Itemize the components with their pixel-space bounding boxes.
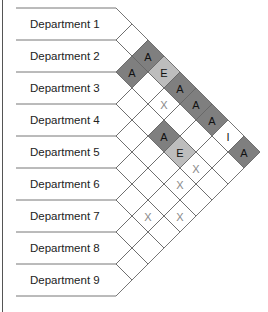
relationship-code: A: [192, 99, 200, 111]
relationship-code: A: [128, 67, 136, 79]
relationship-code: I: [226, 131, 229, 143]
relationship-code: E: [176, 147, 183, 159]
department-row-9: Department 9: [16, 264, 132, 296]
relationship-code: A: [240, 147, 248, 159]
department-row-4: Department 4: [16, 104, 132, 136]
relationship-code: A: [160, 131, 168, 143]
relationship-code: A: [144, 51, 152, 63]
department-label: Department 7: [30, 210, 100, 222]
department-label: Department 1: [30, 18, 100, 30]
department-row-8: Department 8: [16, 232, 132, 264]
department-label: Department 5: [30, 146, 100, 158]
department-row-1: Department 1: [16, 8, 132, 40]
department-row-5: Department 5: [16, 136, 132, 168]
department-row-3: Department 3: [16, 72, 132, 104]
relationship-code: X: [176, 211, 184, 223]
relationship-code: E: [160, 67, 167, 79]
department-label: Department 2: [30, 50, 100, 62]
relationship-code: A: [208, 115, 216, 127]
relationship-code: A: [176, 83, 184, 95]
relationship-chart: AEAAAIAAXAEXXXXDepartment 1Department 2D…: [0, 0, 268, 312]
department-label: Department 9: [30, 274, 100, 286]
department-row-2: Department 2: [16, 40, 132, 72]
relationship-code: X: [192, 163, 200, 175]
department-label: Department 4: [30, 114, 100, 126]
department-label: Department 6: [30, 178, 100, 190]
department-label: Department 8: [30, 242, 100, 254]
relationship-code: X: [176, 179, 184, 191]
department-row-6: Department 6: [16, 168, 132, 200]
department-label: Department 3: [30, 82, 100, 94]
relationship-code: X: [144, 211, 152, 223]
relationship-code: X: [160, 99, 168, 111]
department-row-7: Department 7: [16, 200, 132, 232]
